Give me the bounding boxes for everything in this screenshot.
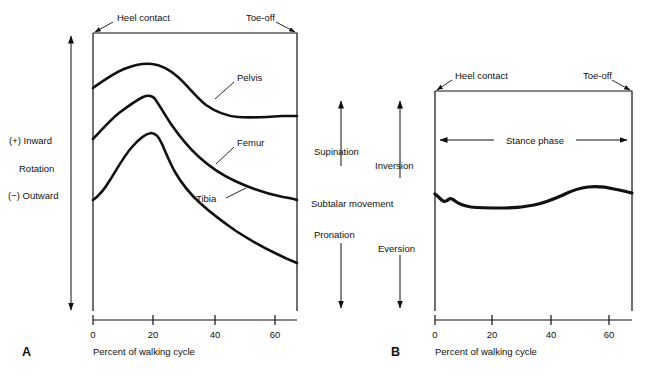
panel-b-xtick-60: 60 [604, 329, 615, 340]
panel-a-xtick-60: 60 [270, 329, 281, 340]
panel-a-xtick-0: 0 [90, 329, 95, 340]
panel-a-x-axis-title: Percent of walking cycle [93, 346, 195, 357]
panel-a-heel-contact-marker [95, 22, 113, 32]
panel-b-xtick-0: 0 [432, 329, 437, 340]
panel-a-curve-femur [93, 96, 297, 200]
panel-a-tibia-label-text: Tibia [196, 193, 217, 204]
panel-a-rotation-label: Rotation [19, 163, 54, 174]
panel-b-heel-contact-text: Heel contact [455, 70, 508, 81]
panel-b-pronation-label: Pronation [314, 229, 355, 240]
panel-a-xtick-40: 40 [210, 329, 221, 340]
panel-a-label-tibia: Tibia [196, 188, 246, 204]
panel-b-xtick-20: 20 [487, 329, 498, 340]
panel-b-x-axis-title: Percent of walking cycle [435, 346, 537, 357]
panel-b-eversion-label: Eversion [378, 243, 415, 254]
panel-a-label-pelvis: Pelvis [215, 72, 263, 99]
panel-b-plot-frame [435, 91, 632, 311]
panel-b-toe-off-text: Toe-off [583, 70, 612, 81]
panel-b: Supination Inversion Subtalar movement P… [311, 70, 632, 359]
panel-b-inversion-label: Inversion [375, 160, 414, 171]
panel-b-xtick-40: 40 [546, 329, 557, 340]
panel-a-inward-label: (+) Inward [9, 135, 52, 146]
panel-b-supination-label: Supination [314, 146, 359, 157]
figure-canvas: Pelvis Femur Tibia Heel contact Toe-off … [0, 0, 657, 377]
panel-a-xtick-20: 20 [148, 329, 159, 340]
panel-b-stance-phase-label: Stance phase [506, 135, 564, 146]
panel-a-label-femur: Femur [216, 137, 264, 164]
panel-a-femur-label-text: Femur [237, 137, 264, 148]
panel-b-label: B [391, 345, 400, 359]
panel-a-pelvis-label-text: Pelvis [237, 72, 263, 83]
panel-a-plot-frame [93, 33, 297, 311]
panel-a-toe-off-marker [276, 22, 295, 32]
panel-b-curve-subtalar [435, 187, 632, 208]
panel-a-label: A [22, 345, 31, 359]
panel-a-outward-label: (−) Outward [8, 190, 58, 201]
panel-a-toe-off-text: Toe-off [246, 12, 275, 23]
panel-b-heel-contact-marker [437, 80, 452, 90]
panel-a: Pelvis Femur Tibia Heel contact Toe-off … [8, 12, 297, 359]
gait-analysis-figure: Pelvis Femur Tibia Heel contact Toe-off … [0, 0, 657, 377]
panel-a-heel-contact-text: Heel contact [117, 12, 170, 23]
panel-b-subtalar-movement-label: Subtalar movement [311, 198, 394, 209]
panel-b-toe-off-marker [612, 80, 630, 90]
